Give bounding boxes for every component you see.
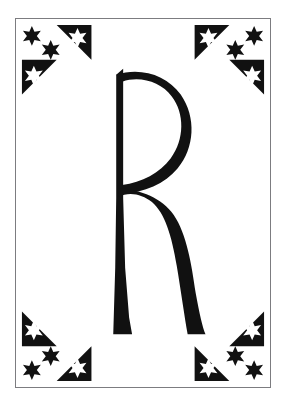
artwork-title: Decorative Letter R bbox=[0, 0, 1, 1]
border-frame bbox=[15, 18, 271, 388]
corner-ornament-top-right bbox=[195, 25, 264, 95]
letter-r-bowl bbox=[116, 72, 191, 194]
artwork-letter: R bbox=[0, 0, 1, 1]
corner-ornament-bottom-left bbox=[22, 311, 91, 381]
letter-r-stem bbox=[113, 69, 132, 335]
letter-r-leg bbox=[118, 188, 205, 334]
illustration-plate: Decorative Letter R R Black ornamental c… bbox=[0, 0, 287, 407]
corner-ornament-top-left bbox=[22, 25, 91, 95]
letter-r-glyph bbox=[113, 69, 205, 335]
artwork-description: Black ornamental capital letter R center… bbox=[0, 0, 1, 1]
artwork-canvas bbox=[16, 19, 270, 387]
corner-ornament-bottom-right bbox=[195, 311, 264, 381]
